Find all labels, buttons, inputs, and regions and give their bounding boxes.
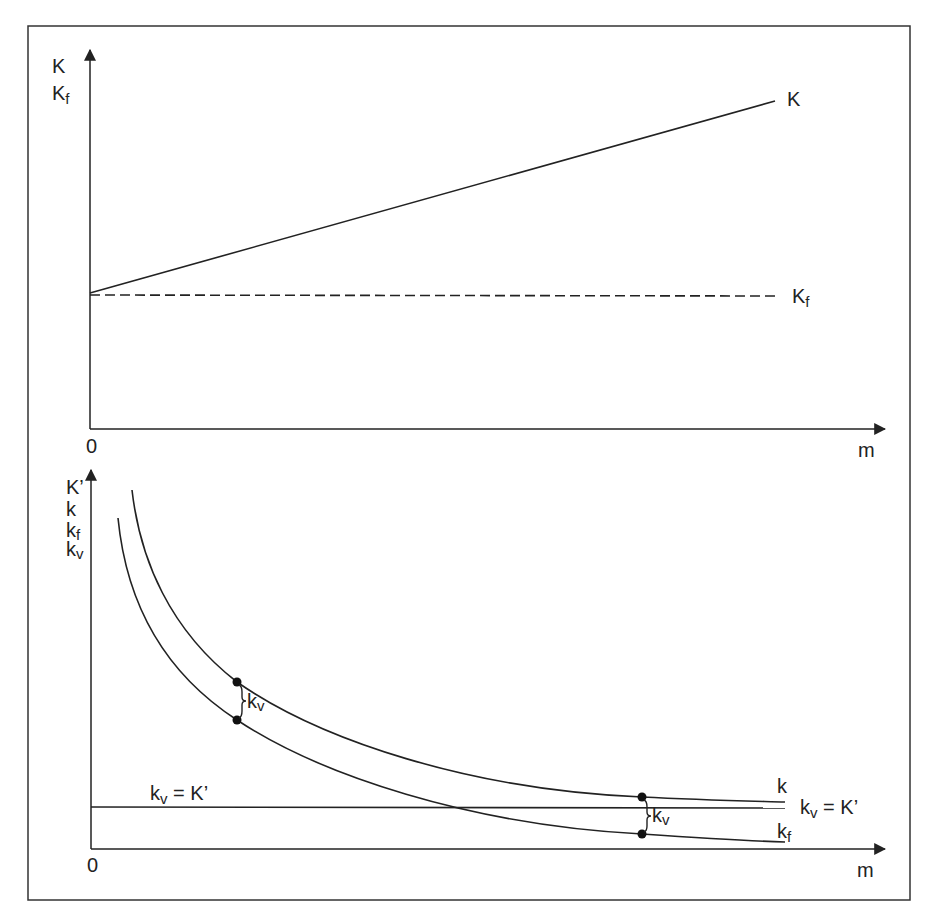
bottom-origin-label: 0 xyxy=(87,854,98,876)
curve-Kf xyxy=(90,295,775,296)
curve-kv-eq-K-prime-label-left: kv = K’ xyxy=(150,782,208,807)
curve-k-label: k xyxy=(777,775,788,797)
cost-curves-diagram: K Kf 0 m K Kf K’ k kf kv 0 m k kf kv = K… xyxy=(0,0,929,922)
curve-K-label: K xyxy=(787,88,801,110)
top-panel: K Kf 0 m K Kf xyxy=(52,50,885,461)
gap-label-left: kv xyxy=(247,690,265,714)
gap-annotation-left: kv xyxy=(233,678,266,725)
curve-kf xyxy=(118,518,785,842)
curve-kv-eq-K-prime xyxy=(91,807,785,808)
bottom-panel: K’ k kf kv 0 m k kf kv = K’ kv = K’ kv k… xyxy=(66,470,885,881)
bottom-y-axis-label-1: K’ xyxy=(66,476,84,498)
top-y-axis-label-2: Kf xyxy=(52,82,70,107)
brace-left-icon xyxy=(239,685,246,718)
top-origin-label: 0 xyxy=(86,435,97,457)
figure-frame xyxy=(28,26,910,900)
brace-right-icon xyxy=(644,800,651,832)
curve-K xyxy=(90,101,775,293)
curve-k xyxy=(132,490,785,802)
bottom-y-axis-label-2: k xyxy=(66,498,77,520)
curve-kv-eq-K-prime-label-right: kv = K’ xyxy=(800,796,858,821)
top-x-axis-label: m xyxy=(858,439,875,461)
top-y-axis-label-1: K xyxy=(52,55,66,77)
curve-kf-label: kf xyxy=(777,820,792,845)
bottom-x-axis-label: m xyxy=(857,859,874,881)
curve-Kf-label: Kf xyxy=(792,285,810,310)
bottom-y-axis-label-4: kv xyxy=(66,538,84,562)
gap-annotation-right: kv xyxy=(638,793,671,839)
